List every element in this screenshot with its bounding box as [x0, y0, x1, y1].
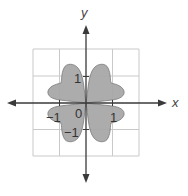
petal-lower-right	[86, 103, 124, 142]
tick-label-x-neg1: −1	[46, 111, 61, 124]
tick-label-origin: 0	[75, 107, 82, 120]
x-axis-arrow-left-icon	[7, 100, 16, 107]
tick-label-x-1: 1	[110, 111, 117, 124]
y-axis-arrow-up-icon	[83, 25, 90, 34]
coordinate-plane	[0, 0, 188, 196]
tick-label-y-1: 1	[74, 72, 81, 85]
x-axis-label: x	[172, 96, 179, 109]
x-axis-arrow-right-icon	[158, 100, 167, 107]
y-axis-arrow-down-icon	[83, 174, 90, 183]
y-axis-label: y	[81, 6, 88, 19]
petal-upper-right	[86, 64, 124, 103]
tick-label-y-neg1: −1	[64, 126, 79, 139]
